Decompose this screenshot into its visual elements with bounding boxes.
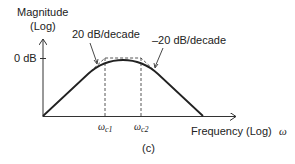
wc2-label: ωc2 — [134, 121, 149, 134]
figure-caption: (c) — [142, 142, 155, 154]
falling-slope-label: –20 dB/decade — [152, 34, 226, 46]
wc1-label: ωc1 — [98, 121, 113, 134]
omega-symbol: ω — [279, 125, 287, 137]
y-axis-label-line2: (Log) — [30, 20, 56, 32]
zero-db-label: 0 dB — [14, 52, 37, 64]
falling-slope-arrow — [155, 48, 163, 67]
bode-diagram: Magnitude (Log) 0 dB 20 dB/decade –20 dB… — [0, 0, 295, 164]
asymptote-dashed — [43, 58, 203, 116]
x-axis-label: Frequency (Log) — [191, 125, 272, 137]
y-axis-label-line1: Magnitude — [17, 6, 68, 18]
rising-slope-arrow — [90, 43, 97, 63]
magnitude-curve — [43, 60, 203, 116]
rising-slope-label: 20 dB/decade — [72, 28, 140, 40]
